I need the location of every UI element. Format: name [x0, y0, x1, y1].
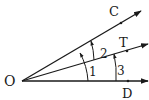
- point-c: [120, 22, 123, 25]
- angle-label-2: 2: [100, 47, 108, 61]
- point-t: [126, 50, 129, 53]
- angle-label-3: 3: [117, 64, 125, 78]
- ray-ot: [22, 44, 148, 81]
- angle-2-arc: [91, 41, 94, 60]
- vertex-label-o: O: [4, 73, 15, 89]
- ray-label-d: D: [122, 86, 132, 100]
- ray-label-t: T: [119, 35, 128, 50]
- angle-3-arc: [114, 54, 116, 81]
- angle-1-arc: [80, 53, 88, 81]
- angle-diagram: O C T D 1 2 3: [0, 0, 149, 100]
- ray-label-c: C: [109, 4, 119, 19]
- point-d: [127, 80, 130, 83]
- angle-label-1: 1: [89, 65, 97, 79]
